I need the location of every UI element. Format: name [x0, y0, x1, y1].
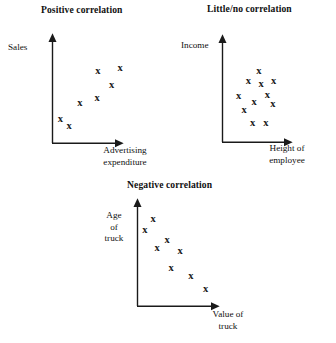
chart-3-y-axis-label-line: truck — [95, 233, 133, 245]
data-point-marker: x — [155, 242, 161, 253]
chart-1-axes — [52, 41, 116, 143]
data-point-marker: x — [150, 213, 156, 224]
data-point-marker: x — [251, 96, 257, 107]
data-point-marker: x — [188, 270, 194, 281]
chart-1-y-axis-label: Sales — [8, 42, 27, 54]
chart-1-x-axis-label: Advertising expenditure — [79, 145, 171, 168]
chart-3-axes — [137, 206, 212, 306]
chart-3-points: xxxxxxxx — [142, 213, 209, 294]
chart-1-y-axis-label-line: Sales — [8, 42, 27, 54]
data-point-marker: x — [265, 89, 271, 100]
data-point-marker: x — [58, 113, 64, 124]
data-point-marker: x — [203, 283, 209, 294]
chart-3-x-axis-label-line: Value of — [184, 309, 272, 321]
chart-3-x-axis-label-line: truck — [184, 321, 272, 333]
data-point-marker: x — [256, 65, 262, 76]
chart-2-x-axis-label: Height of employee — [249, 143, 325, 166]
chart-2-title: Little/no correlation — [207, 3, 292, 14]
chart-3-y-axis-label-line: of — [95, 222, 133, 234]
chart-2-y-axis-label-line: Income — [181, 40, 209, 52]
scatter-diagrams-svg: xxxxxxx xxxxxxxxxxx xxxxxxxx — [0, 0, 336, 343]
data-point-marker: x — [95, 65, 101, 76]
data-point-marker: x — [263, 117, 269, 128]
data-point-marker: x — [164, 234, 170, 245]
data-point-marker: x — [118, 62, 124, 73]
data-point-marker: x — [250, 117, 256, 128]
chart-1-x-axis-label-line: Advertising — [79, 145, 171, 157]
data-point-marker: x — [246, 75, 252, 86]
chart-2-x-axis-label-line: employee — [249, 155, 325, 167]
data-point-marker: x — [77, 97, 83, 108]
data-point-marker: x — [242, 104, 248, 115]
chart-1-x-axis-label-line: expenditure — [79, 157, 171, 169]
data-point-marker: x — [236, 90, 242, 101]
data-point-marker: x — [271, 75, 277, 86]
chart-2-points: xxxxxxxxxxx — [236, 65, 277, 128]
chart-1-points: xxxxxxx — [58, 62, 124, 131]
data-point-marker: x — [168, 262, 174, 273]
data-point-marker: x — [178, 245, 184, 256]
data-point-marker: x — [95, 92, 101, 103]
data-point-marker: x — [142, 224, 148, 235]
chart-2-x-axis-label-line: Height of — [249, 143, 325, 155]
chart-2-y-axis-label: Income — [181, 40, 209, 52]
chart-3-y-axis-label-line: Age — [95, 210, 133, 222]
chart-3-title: Negative correlation — [127, 179, 212, 190]
data-point-marker: x — [109, 79, 115, 90]
data-point-marker: x — [270, 98, 276, 109]
data-point-marker: x — [258, 78, 264, 89]
chart-3-y-axis-label: Age of truck — [95, 210, 133, 245]
figure-canvas: xxxxxxx xxxxxxxxxxx xxxxxxxx Positive co… — [0, 0, 336, 343]
data-point-marker: x — [66, 120, 72, 131]
chart-1-title: Positive correlation — [41, 4, 122, 15]
chart-3-x-axis-label: Value of truck — [184, 309, 272, 332]
